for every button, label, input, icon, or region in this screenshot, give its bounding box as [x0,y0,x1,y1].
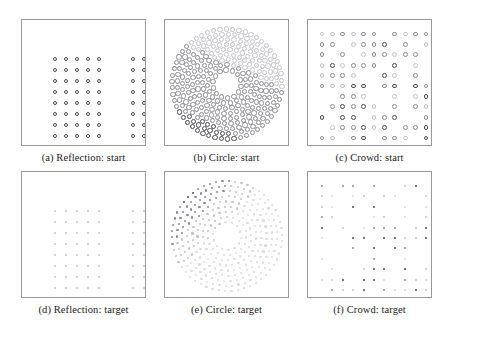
data-point [259,53,264,58]
data-point [97,90,102,95]
data-point [270,244,272,246]
data-point [143,254,145,256]
data-point [204,103,209,108]
data-point [132,254,134,256]
data-point [351,125,356,130]
data-point [221,180,223,182]
data-point [233,269,235,271]
data-point [98,243,100,245]
data-point [244,251,246,253]
data-point [238,84,243,89]
data-point [382,115,387,120]
data-point [192,94,197,99]
data-point [351,84,356,89]
data-point [97,123,102,128]
data-point [196,74,201,79]
data-point [249,227,251,229]
data-point [243,259,245,261]
data-point [169,79,174,84]
data-point [202,218,204,220]
data-point [373,185,375,187]
data-point [351,63,356,68]
data-point [235,252,237,254]
data-point [219,58,224,63]
data-point [237,186,239,188]
data-point [186,265,188,267]
data-point [53,134,58,139]
data-point [415,289,417,291]
data-point [372,104,377,109]
data-point [403,32,408,37]
data-point [267,95,272,100]
data-point [231,211,233,213]
data-point [279,90,284,95]
data-point [265,274,267,276]
data-point [352,237,354,239]
data-point [330,32,335,37]
data-point [242,224,244,226]
data-point [330,84,335,89]
data-point [191,216,193,218]
data-point [192,192,194,194]
data-point [142,101,146,106]
data-point [218,223,220,225]
data-point [260,272,262,274]
data-point [244,243,246,245]
data-point [171,243,173,245]
data-point [238,202,240,204]
data-point [143,221,145,223]
data-point [223,254,225,256]
data-point [279,78,284,83]
data-point [232,32,237,37]
data-point [173,249,175,251]
data-point [425,289,427,291]
data-point [342,185,344,187]
data-point [382,42,387,47]
data-point [268,262,270,264]
data-point [248,255,250,257]
data-point [240,248,242,250]
data-point [212,135,217,140]
data-point [254,225,256,227]
data-point [181,115,186,120]
data-point [208,219,210,221]
data-point [246,184,248,186]
data-point [425,206,427,208]
data-point [131,90,136,95]
data-point [245,236,247,238]
data-point [223,67,228,72]
data-point [176,242,178,244]
panel-crowd-start [307,19,432,146]
data-point [330,73,335,78]
data-point [245,109,250,114]
data-point [75,90,80,95]
data-point [75,112,80,117]
data-point [424,104,429,109]
data-point [97,112,102,117]
data-point [203,202,205,204]
figure-dot-pattern-panels: (a) Reflection: start (b) Circle: start … [0,0,479,363]
data-point [247,195,249,197]
data-point [175,91,180,96]
data-point [320,84,325,89]
data-point [249,285,251,287]
data-point [236,28,241,33]
data-point [425,237,427,239]
panel-crowd-target [307,171,432,298]
data-point [175,78,180,83]
data-point [253,213,255,215]
data-point [182,226,184,228]
data-point [76,276,78,278]
data-point [221,248,223,250]
data-point [255,231,257,233]
data-point [351,42,356,47]
data-point [330,125,335,130]
data-point [131,134,136,139]
data-point [413,104,418,109]
data-point [392,32,397,37]
data-point [201,43,206,48]
data-point [220,217,222,219]
data-point [64,90,69,95]
data-point [361,84,366,89]
data-point [275,59,280,64]
